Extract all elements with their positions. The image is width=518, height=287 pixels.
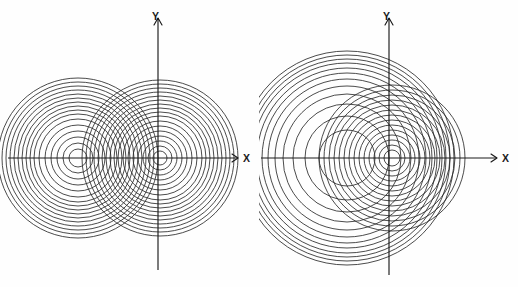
right-x-axis-label: X [502,152,509,164]
right-panel-diagram: X Y [259,0,518,287]
left-y-axis-label: Y [152,10,159,22]
left-panel-diagram: X Y [0,0,259,287]
figure-root: X Y X Y [0,0,518,287]
left-x-axis-label: X [243,152,250,164]
right-y-axis-label: Y [383,10,390,22]
